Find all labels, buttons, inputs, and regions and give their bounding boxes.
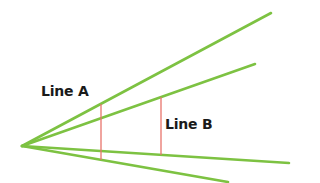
ray-3 (22, 146, 289, 163)
ray-1 (22, 13, 271, 146)
ray-2 (22, 64, 255, 146)
line-a-label: Line A (41, 84, 89, 98)
line-b-label: Line B (165, 117, 213, 131)
